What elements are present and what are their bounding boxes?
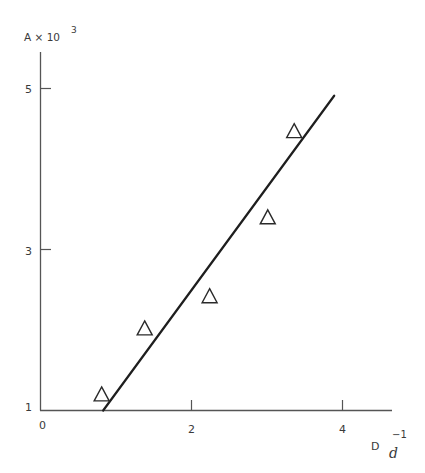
y-tick-label-3: 3 — [25, 246, 32, 257]
x-tick-label-2: 2 — [188, 424, 195, 435]
y-tick-label-1: 1 — [25, 402, 32, 413]
x-ticks — [192, 400, 343, 411]
y-tick-label-5: 5 — [25, 84, 32, 95]
chart-canvas — [0, 0, 425, 473]
triangle-marker-icon — [287, 124, 302, 138]
data-markers — [94, 124, 302, 401]
x-tick-label-4: 4 — [339, 424, 346, 435]
fit-line — [103, 96, 334, 411]
y-axis-exponent: 3 — [71, 26, 77, 35]
y-axis-label-text: A × 10 — [24, 31, 60, 43]
y-ticks — [41, 89, 52, 250]
triangle-marker-icon — [202, 289, 217, 303]
x-tick-label-0: 0 — [39, 420, 46, 431]
x-axis-variable: d — [389, 446, 398, 460]
y-axis-label: A × 10 — [24, 32, 60, 43]
x-axis-label: D — [371, 441, 379, 452]
triangle-marker-icon — [94, 387, 109, 401]
fitted-line — [103, 96, 334, 411]
x-axis-exponent: −1 — [392, 430, 407, 440]
triangle-marker-icon — [137, 321, 152, 335]
triangle-marker-icon — [260, 210, 275, 224]
